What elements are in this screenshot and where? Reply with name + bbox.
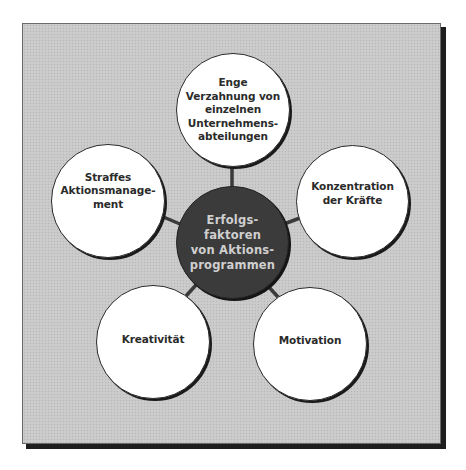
node-bottom-left: Kreativität bbox=[96, 285, 210, 399]
node-top-line-4: Unternehmens- bbox=[188, 117, 278, 131]
node-top-line-3: einzelnen bbox=[205, 103, 261, 117]
node-left-line-1: Straffes bbox=[85, 171, 132, 185]
node-center-label: Erfolgs- faktoren von Aktions- programme… bbox=[190, 213, 275, 273]
node-bottom-left-label: Kreativität bbox=[122, 333, 185, 347]
connector-bottom-right bbox=[267, 285, 278, 297]
node-bottom-right-line-1: Motivation bbox=[279, 334, 342, 348]
node-right-line-1: Konzentration bbox=[311, 180, 394, 194]
node-left-line-2: Aktionsmanage- bbox=[61, 184, 156, 198]
node-center-line-4: programmen bbox=[190, 258, 275, 273]
node-right-label: Konzentration der Kräfte bbox=[311, 180, 394, 207]
node-bottom-left-line-1: Kreativität bbox=[122, 333, 185, 347]
node-center: Erfolgs- faktoren von Aktions- programme… bbox=[176, 186, 289, 299]
node-top: Enge Verzahnung von einzelnen Unternehme… bbox=[176, 53, 290, 167]
node-bottom-right: Motivation bbox=[253, 287, 367, 401]
connector-left bbox=[161, 216, 180, 224]
connector-bottom-left bbox=[186, 285, 196, 296]
node-top-line-1: Enge bbox=[219, 76, 248, 90]
node-center-line-2: faktoren bbox=[204, 228, 261, 243]
node-left-line-3: ment bbox=[93, 198, 123, 212]
node-left-label: Straffes Aktionsmanage- ment bbox=[61, 171, 156, 212]
node-center-line-1: Erfolgs- bbox=[207, 213, 259, 228]
node-center-line-3: von Aktions- bbox=[191, 243, 275, 258]
node-left: Straffes Aktionsmanage- ment bbox=[51, 144, 165, 258]
node-top-line-5: abteilungen bbox=[198, 130, 268, 144]
node-right: Konzentration der Kräfte bbox=[296, 145, 409, 258]
node-top-line-2: Verzahnung von bbox=[186, 90, 280, 104]
node-right-line-2: der Kräfte bbox=[323, 194, 383, 208]
connector-right bbox=[284, 218, 300, 224]
node-top-label: Enge Verzahnung von einzelnen Unternehme… bbox=[186, 76, 280, 144]
node-bottom-right-label: Motivation bbox=[279, 334, 342, 348]
